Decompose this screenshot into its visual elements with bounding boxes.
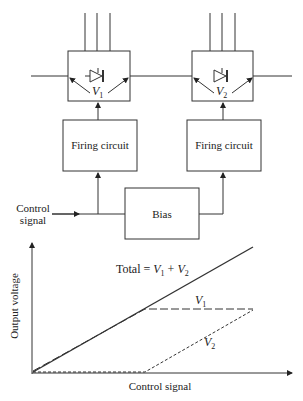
arrow-icon [194,78,214,93]
supply-lines-1 [85,13,110,51]
diagram-canvas [0,0,303,401]
firing-circuit-1-label: Firing circuit [63,139,137,151]
v1-annotation: V1 [195,294,206,311]
series-v1 [33,309,253,371]
control-signal-label: Control signal [12,202,54,226]
v2-annotation: V2 [204,336,215,353]
series-v2 [33,310,253,372]
total-annotation: Total = V1 + V2 [116,263,189,280]
firing-circuit-2-label: Firing circuit [187,139,261,151]
bias-label: Bias [125,208,199,220]
thyristor-icon [214,68,227,82]
arrow-icon [232,78,252,93]
supply-lines-2 [210,13,235,51]
thyristor-1-label: V1 [92,85,103,102]
thyristor-icon [85,68,103,82]
arrow-icon [70,78,90,93]
x-axis-label: Control signal [100,380,220,392]
thyristor-2-label: V2 [216,85,227,102]
y-axis-label: Output voltage [8,266,20,346]
arrow-icon [108,78,128,93]
